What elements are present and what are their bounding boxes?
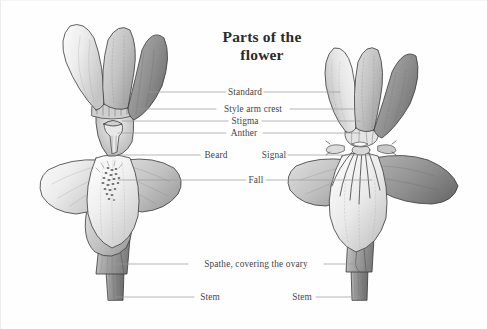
right-style-arm-right (378, 145, 396, 154)
left-standard-left (63, 25, 104, 111)
right-front-fall (329, 153, 387, 252)
label-stem-right: Stem (292, 292, 312, 302)
right-style-arm-left (326, 145, 344, 154)
label-spathe: Spathe, covering the ovary (204, 259, 308, 269)
left-flower-figure (40, 25, 181, 301)
page-title-line-1: Parts of the (222, 28, 301, 45)
left-stem (106, 272, 124, 300)
flower-diagram-page: Parts of the flower Standard Style arm c… (0, 0, 487, 329)
label-fall: Fall (248, 175, 263, 185)
right-standard-left (325, 48, 357, 133)
page-title-line-2: flower (240, 46, 283, 63)
label-stigma: Stigma (231, 116, 258, 126)
label-standard: Standard (228, 87, 262, 97)
label-style-arm-crest: Style arm crest (224, 104, 282, 114)
page-title: Parts of the flower (196, 28, 328, 64)
label-beard: Beard (205, 150, 228, 160)
label-stem-left: Stem (200, 292, 220, 302)
label-signal: Signal (262, 150, 287, 160)
right-stem (351, 268, 368, 300)
label-anther: Anther (231, 128, 258, 138)
right-flower-figure (288, 48, 458, 300)
